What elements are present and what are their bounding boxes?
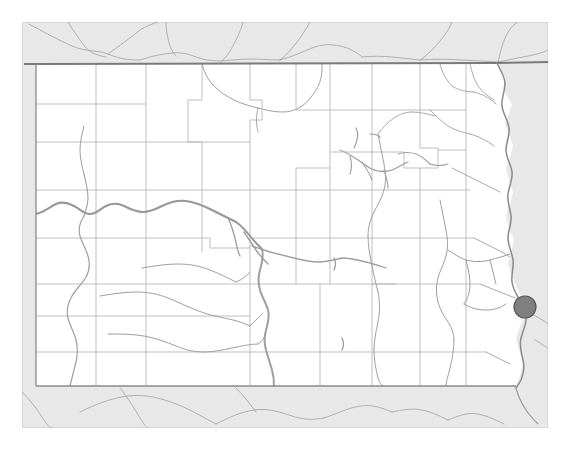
map-canvas: North Dakota county map with location ma… bbox=[0, 0, 572, 449]
map-container: North Dakota county map with location ma… bbox=[0, 0, 572, 449]
location-marker-dot[interactable] bbox=[514, 296, 536, 318]
state-fill bbox=[20, 58, 540, 392]
location-marker[interactable] bbox=[514, 296, 536, 318]
state-interior bbox=[20, 58, 540, 392]
